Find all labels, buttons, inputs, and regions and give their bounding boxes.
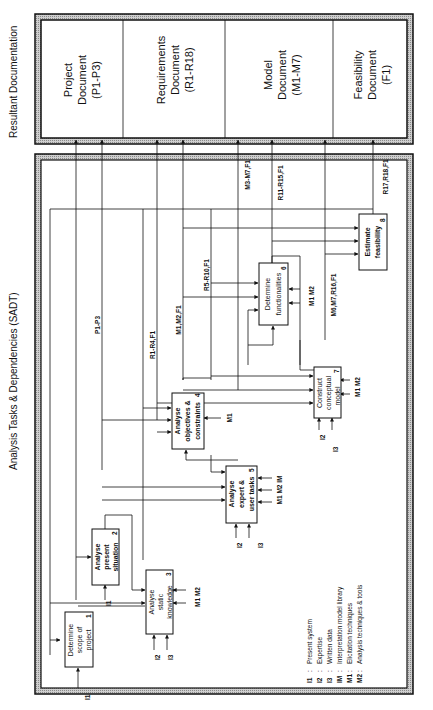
svg-text:2: 2	[111, 531, 118, 535]
svg-text:I2: I2	[319, 434, 326, 440]
svg-text:Analyse: Analyse	[148, 589, 156, 614]
svg-text:M3-M7,F1: M3-M7,F1	[244, 160, 252, 190]
svg-text:Written data: Written data	[326, 629, 333, 664]
svg-text:R17,R18,F1: R17,R18,F1	[382, 159, 390, 194]
activity-box-8[interactable]: Estimate feasibility 8	[359, 214, 387, 270]
svg-text::: :	[316, 670, 323, 672]
svg-text:present: present	[103, 544, 111, 570]
svg-text:M1 M2: M1 M2	[354, 377, 361, 397]
svg-text:Construct: Construct	[316, 378, 323, 408]
svg-text:7: 7	[333, 369, 340, 373]
svg-text::: :	[356, 670, 363, 672]
svg-text:M1,M2,F1: M1,M2,F1	[175, 305, 183, 335]
svg-text:6: 6	[280, 266, 287, 270]
svg-text:I3: I3	[326, 677, 333, 683]
svg-text:R5-R10,F1: R5-R10,F1	[203, 259, 211, 291]
svg-text:M2: M2	[356, 674, 363, 683]
svg-text:Present system: Present system	[306, 619, 314, 664]
svg-text:scope of: scope of	[76, 627, 84, 654]
svg-text::: :	[336, 670, 343, 672]
legend-item: M1 : Elicitation techniques	[346, 602, 354, 683]
svg-text:IM: IM	[336, 676, 343, 683]
svg-text:Model: Model	[262, 60, 274, 90]
svg-text:1: 1	[85, 614, 92, 618]
svg-text:Analyse: Analyse	[228, 480, 236, 507]
svg-text:(P1-P3): (P1-P3)	[90, 61, 102, 99]
svg-text:Determine: Determine	[67, 624, 74, 656]
svg-text:M1 M2 IM: M1 M2 IM	[276, 476, 283, 505]
svg-text:functionalities: functionalities	[275, 272, 282, 315]
svg-text:5: 5	[248, 468, 255, 472]
svg-text:model: model	[334, 386, 341, 406]
svg-text::: :	[306, 670, 313, 672]
svg-text:objectives &: objectives &	[184, 400, 192, 441]
svg-text:P1-P3: P1-P3	[94, 316, 101, 334]
svg-text:Document: Document	[169, 45, 181, 95]
svg-text:8: 8	[379, 218, 386, 222]
svg-text:I2: I2	[154, 654, 161, 660]
svg-text:knowledge: knowledge	[166, 585, 174, 619]
svg-text:I2: I2	[236, 542, 243, 548]
svg-text::: :	[346, 670, 353, 672]
activity-box-6[interactable]: Determine functionalities 6	[259, 263, 288, 325]
activity-box-5[interactable]: Analyse expert & user tasks 5	[226, 466, 257, 523]
svg-text:I1: I1	[105, 600, 112, 606]
activity-box-7[interactable]: Construct conceptual model 7	[314, 367, 341, 418]
svg-text:4: 4	[194, 393, 201, 397]
svg-text:Analysis techniques & tools: Analysis techniques & tools	[356, 584, 364, 664]
svg-text:conceptual: conceptual	[325, 376, 333, 410]
svg-text:Analyse: Analyse	[174, 407, 182, 434]
activity-box-4[interactable]: Analyse objectives & constraints 4	[172, 393, 204, 449]
svg-text:Determine: Determine	[264, 278, 271, 310]
diagram-title: Analysis Tasks & Dependencies (SADT)	[8, 292, 19, 470]
svg-text:M1 M2: M1 M2	[194, 587, 201, 607]
svg-text:feasibility: feasibility	[374, 226, 382, 258]
svg-text:R11-R15,F1: R11-R15,F1	[277, 165, 285, 200]
svg-text:3: 3	[165, 572, 172, 576]
svg-text:Requirements: Requirements	[155, 35, 167, 104]
svg-text:I3: I3	[332, 446, 339, 452]
svg-text:static: static	[157, 593, 164, 610]
svg-text:Expertise: Expertise	[316, 637, 324, 664]
svg-text:situation: situation	[112, 542, 119, 571]
svg-text:R1-R4,F1: R1-R4,F1	[149, 331, 157, 360]
svg-text:M6,M7,R16,F1: M6,M7,R16,F1	[330, 273, 338, 316]
svg-text:Elicitation techniques: Elicitation techniques	[346, 602, 354, 664]
svg-text:user tasks: user tasks	[248, 477, 255, 512]
svg-text:Document: Document	[76, 55, 88, 105]
svg-text:Document: Document	[276, 50, 288, 100]
svg-text:M1: M1	[226, 413, 233, 422]
svg-text:Project: Project	[62, 63, 74, 97]
documentation-title: Resultant Documentation	[8, 26, 19, 138]
svg-text:I1: I1	[84, 694, 91, 700]
svg-text:Estimate: Estimate	[364, 227, 371, 256]
svg-text:I1: I1	[306, 677, 313, 683]
svg-text:Feasibility: Feasibility	[352, 50, 364, 99]
svg-text:Document: Document	[366, 50, 378, 100]
svg-text:Interpretation model library: Interpretation model library	[336, 586, 344, 664]
svg-text:M1 M2: M1 M2	[308, 286, 315, 306]
svg-text:I3: I3	[257, 542, 264, 548]
svg-text:project: project	[85, 629, 93, 650]
svg-text:(M1-M7): (M1-M7)	[290, 54, 302, 96]
svg-text:constraints: constraints	[194, 402, 201, 440]
svg-text:(R1-R18): (R1-R18)	[183, 47, 195, 92]
activity-box-3[interactable]: Analyse static knowledge 3	[146, 570, 174, 634]
svg-text:I2: I2	[316, 677, 323, 683]
svg-text:Analyse: Analyse	[94, 543, 102, 570]
svg-text::: :	[326, 670, 333, 672]
sadt-diagram-page: Resultant Documentation Analysis Tasks &…	[0, 0, 433, 710]
svg-text:(F1): (F1)	[380, 65, 392, 85]
activity-box-2[interactable]: Analyse present situation 2	[92, 529, 119, 585]
svg-text:expert &: expert &	[238, 480, 246, 508]
svg-text:M1: M1	[346, 674, 353, 683]
activity-box-1[interactable]: Determine scope of project 1	[65, 612, 93, 667]
svg-text:I3: I3	[167, 654, 174, 660]
